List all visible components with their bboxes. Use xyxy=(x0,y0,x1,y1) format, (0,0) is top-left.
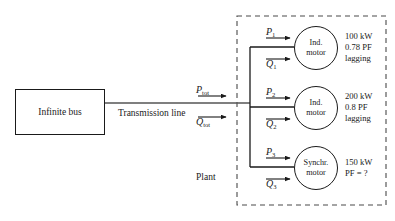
motor-2-spec-line-3: lagging xyxy=(345,113,372,124)
motor-1-line-2: motor xyxy=(306,48,326,58)
motor-3-line-2: motor xyxy=(306,168,326,178)
motor-3-line-1: Synchr. xyxy=(304,158,329,168)
q-total-label: Qtot xyxy=(196,116,210,127)
motor-3-specs: 150 kW PF = ? xyxy=(345,157,372,179)
motor-1-line-1: Ind. xyxy=(310,38,323,48)
motor-2-spec-line-2: 0.8 PF xyxy=(345,102,372,113)
p2-label: P2 xyxy=(266,86,275,97)
p3-label: P3 xyxy=(266,146,275,157)
synchronous-motor-symbol: Synchr. motor xyxy=(294,146,338,190)
motor-1-spec-line-1: 100 kW xyxy=(345,31,372,42)
q2-label: Q2 xyxy=(266,118,277,129)
motor-1-spec-line-3: lagging xyxy=(345,53,372,64)
infinite-bus-block: Infinite bus xyxy=(15,89,105,135)
p-total-label: Ptot xyxy=(196,84,209,95)
q3-label: Q3 xyxy=(266,178,277,189)
p1-label: P1 xyxy=(266,26,275,37)
diagram-canvas: Infinite bus Transmission line Plant Pto… xyxy=(0,0,395,221)
motor-3-spec-line-1: 150 kW xyxy=(345,157,372,168)
motor-1-specs: 100 kW 0.78 PF lagging xyxy=(345,31,372,65)
transmission-line-label: Transmission line xyxy=(118,108,185,120)
motor-2-line-1: Ind. xyxy=(310,98,323,108)
q1-label: Q1 xyxy=(266,58,277,69)
infinite-bus-label: Infinite bus xyxy=(38,107,82,117)
motor-1-spec-line-2: 0.78 PF xyxy=(345,42,372,53)
plant-label: Plant xyxy=(196,172,216,184)
motor-2-line-2: motor xyxy=(306,108,326,118)
induction-motor-2-symbol: Ind. motor xyxy=(294,86,338,130)
induction-motor-1-symbol: Ind. motor xyxy=(294,26,338,70)
motor-3-spec-line-2: PF = ? xyxy=(345,168,372,179)
motor-2-spec-line-1: 200 kW xyxy=(345,91,372,102)
motor-2-specs: 200 kW 0.8 PF lagging xyxy=(345,91,372,125)
